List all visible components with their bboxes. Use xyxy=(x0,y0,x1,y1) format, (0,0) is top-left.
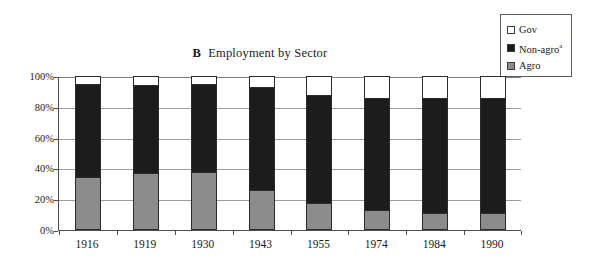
bar-segment-agro xyxy=(249,190,275,230)
y-axis-tick-label: 80% xyxy=(8,103,54,113)
bar-segment-non-agro xyxy=(249,87,275,190)
legend-swatch-non-agro-icon xyxy=(507,44,515,52)
bar-stack xyxy=(75,76,101,230)
bar-segment-non-agro xyxy=(364,98,390,210)
bar-segment-gov xyxy=(480,76,506,98)
bar-segment-non-agro xyxy=(480,98,506,213)
x-axis-tick-mark xyxy=(233,231,234,235)
legend-label-gov: Gov xyxy=(519,24,537,35)
legend-item-non-agro: Non-agroa xyxy=(507,39,571,56)
x-axis-tick-mark xyxy=(175,231,176,235)
x-axis-tick-mark xyxy=(117,231,118,235)
panel-letter: B xyxy=(193,46,202,60)
x-axis: 19161919193019431955197419841990 xyxy=(58,238,521,258)
y-axis-tick-label: 40% xyxy=(8,164,54,174)
plot-area xyxy=(58,77,521,231)
x-axis-tick-mark xyxy=(348,231,349,235)
gridline xyxy=(59,77,521,78)
bar-stack xyxy=(480,76,506,230)
x-axis-tick-mark xyxy=(406,231,407,235)
bar-segment-agro xyxy=(191,172,217,230)
bar-stack xyxy=(133,76,159,230)
bar-stack xyxy=(191,76,217,230)
y-axis: 0%20%40%60%80%100% xyxy=(4,77,54,231)
bar-stack xyxy=(249,76,275,230)
bar-segment-gov xyxy=(249,76,275,87)
y-axis-tick-label: 100% xyxy=(8,72,54,82)
y-axis-tick-label: 20% xyxy=(8,195,54,205)
legend-item-agro: Agro xyxy=(507,57,571,74)
bar-segment-agro xyxy=(75,177,101,230)
bar-segment-non-agro xyxy=(422,98,448,213)
gridline xyxy=(59,200,521,201)
bar-stack xyxy=(364,76,390,230)
legend-label-non-agro-superscript: a xyxy=(559,42,562,50)
x-axis-tick-mark xyxy=(59,231,60,235)
x-axis-tick-label: 1919 xyxy=(115,238,175,251)
legend-item-gov: Gov xyxy=(507,21,571,38)
bar-segment-non-agro xyxy=(75,84,101,177)
bar-stack xyxy=(422,76,448,230)
x-axis-tick-label: 1930 xyxy=(173,238,233,251)
x-axis-tick-label: 1916 xyxy=(57,238,117,251)
page-title: BEmployment by Sector xyxy=(60,46,460,61)
legend-swatch-agro-icon xyxy=(507,62,515,70)
x-axis-tick-label: 1974 xyxy=(346,238,406,251)
y-axis-tick-label: 0% xyxy=(8,226,54,236)
bar-segment-agro xyxy=(133,173,159,230)
bar-segment-gov xyxy=(191,76,217,84)
chart-title-text: Employment by Sector xyxy=(208,46,327,60)
bar-segment-agro xyxy=(364,210,390,230)
x-axis-tick-mark xyxy=(291,231,292,235)
bar-segment-agro xyxy=(480,213,506,230)
bar-segment-agro xyxy=(422,213,448,230)
x-axis-tick-label: 1990 xyxy=(462,238,522,251)
x-axis-tick-mark xyxy=(521,231,522,235)
bar-segment-gov xyxy=(364,76,390,98)
x-axis-tick-label: 1984 xyxy=(404,238,464,251)
x-axis-tick-label: 1955 xyxy=(288,238,348,251)
bar-segment-non-agro xyxy=(306,95,332,204)
legend-swatch-gov-icon xyxy=(507,26,515,34)
bar-segment-gov xyxy=(306,76,332,94)
legend-label-non-agro: Non-agroa xyxy=(519,41,562,55)
bar-segment-non-agro xyxy=(133,85,159,173)
y-axis-tick-mark xyxy=(54,231,58,232)
legend-label-non-agro-text: Non-agro xyxy=(519,43,559,54)
gridline xyxy=(59,169,521,170)
bar-segment-gov xyxy=(422,76,448,98)
bar-segment-gov xyxy=(133,76,159,85)
figure-container: BEmployment by Sector Gov Non-agroa Agro… xyxy=(0,0,597,269)
x-axis-tick-label: 1943 xyxy=(231,238,291,251)
legend-label-agro: Agro xyxy=(519,60,541,71)
bar-stack xyxy=(306,76,332,230)
bar-segment-agro xyxy=(306,203,332,230)
gridline xyxy=(59,139,521,140)
chart-legend: Gov Non-agroa Agro xyxy=(500,14,572,77)
y-axis-tick-label: 60% xyxy=(8,134,54,144)
bar-segment-gov xyxy=(75,76,101,84)
gridline xyxy=(59,108,521,109)
x-axis-tick-mark xyxy=(464,231,465,235)
bar-segment-non-agro xyxy=(191,84,217,172)
